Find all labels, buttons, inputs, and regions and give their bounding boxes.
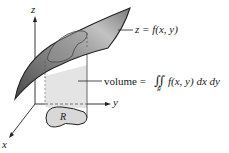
z-axis-label: z <box>31 3 35 15</box>
x-axis-label: x <box>2 138 7 150</box>
volume-label-prefix: volume = <box>104 75 146 87</box>
y-axis-label: y <box>113 96 118 108</box>
x-axis <box>9 104 35 138</box>
surface-label: z = f(x, y) <box>135 23 178 35</box>
region-label: R <box>60 111 66 122</box>
integral-subscript: R <box>157 86 161 92</box>
region-r <box>46 107 87 127</box>
volume-integrand: f(x, y) dx dy <box>168 75 220 87</box>
